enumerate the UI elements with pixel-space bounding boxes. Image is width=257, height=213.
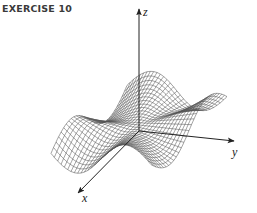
z-axis-label: z: [142, 5, 148, 19]
y-axis-label: y: [231, 145, 238, 159]
surface-plot: z y x: [0, 0, 257, 213]
x-axis-label: x: [81, 191, 88, 205]
